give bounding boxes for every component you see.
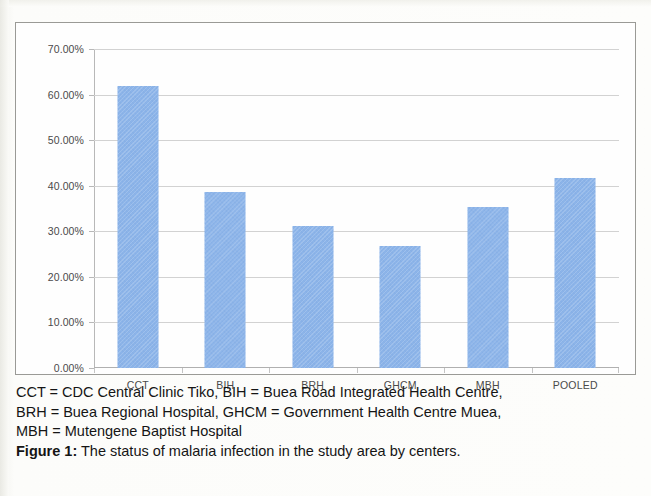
x-axis-tick-mark [269,368,270,373]
bar[interactable] [292,226,333,368]
figure-caption: CCT = CDC Central Clinic Tiko, BIH = Bue… [16,383,641,461]
scan-top-edge [0,0,651,7]
x-axis-tick-mark [618,368,619,373]
y-axis-tick-label: 30.00% [48,225,84,237]
scan-left-edge [0,0,9,496]
y-axis-tick-labels: 0.00%10.00%20.00%30.00%40.00%50.00%60.00… [16,49,88,368]
bar[interactable] [205,192,246,368]
y-axis-tick-label: 0.00% [54,362,84,374]
y-axis-tick-label: 40.00% [48,180,84,192]
chart-figure-frame: 0.00%10.00%20.00%30.00%40.00%50.00%60.00… [15,22,636,375]
y-axis-tick-label: 50.00% [48,134,84,146]
x-axis-tick-mark [444,368,445,373]
figure-caption-line: Figure 1: The status of malaria infectio… [16,442,641,462]
bar[interactable] [467,207,508,368]
figure-caption-text: The status of malaria infection in the s… [77,443,460,459]
bar-group: BIH [182,49,270,368]
bar[interactable] [117,86,158,368]
y-axis-tick-label: 70.00% [48,43,84,55]
x-axis-tick-mark [182,368,183,373]
plot-inner: CCTBIHBRHGHCMMBHPOOLED [94,49,619,368]
bar-group: BRH [269,49,357,368]
abbrev-line-3: MBH = Mutengene Baptist Hospital [16,422,641,442]
bar[interactable] [555,178,596,368]
abbrev-line-2: BRH = Buea Regional Hospital, GHCM = Gov… [16,403,641,423]
y-axis-tick-label: 60.00% [48,89,84,101]
bar-group: POOLED [532,49,620,368]
bar-group: CCT [94,49,182,368]
bar[interactable] [380,246,421,368]
y-axis-tick-label: 20.00% [48,271,84,283]
x-axis-tick-mark [357,368,358,373]
x-axis-tick-mark [94,368,95,373]
scanned-page: 0.00%10.00%20.00%30.00%40.00%50.00%60.00… [0,0,651,496]
bar-group: GHCM [357,49,445,368]
x-axis-tick-mark [532,368,533,373]
bar-group: MBH [444,49,532,368]
plot-area: CCTBIHBRHGHCMMBHPOOLED [94,49,619,368]
abbrev-line-1: CCT = CDC Central Clinic Tiko, BIH = Bue… [16,383,641,403]
y-axis-tick-label: 10.00% [48,316,84,328]
figure-label: Figure 1: [16,443,77,459]
